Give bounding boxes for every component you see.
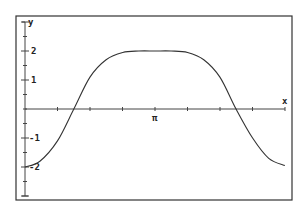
y-tick-label: -1 (29, 133, 40, 143)
x-tick-label-pi: π (152, 113, 158, 123)
axis-labels: yxπ21-1-2 (28, 17, 288, 172)
axes (21, 22, 285, 196)
y-tick-label: -2 (29, 162, 40, 172)
chart-plot: yxπ21-1-2 (0, 0, 308, 210)
y-tick-label: 1 (31, 75, 36, 85)
y-axis-label: y (28, 17, 34, 27)
x-axis-label: x (282, 96, 288, 106)
y-tick-label: 2 (31, 46, 36, 56)
